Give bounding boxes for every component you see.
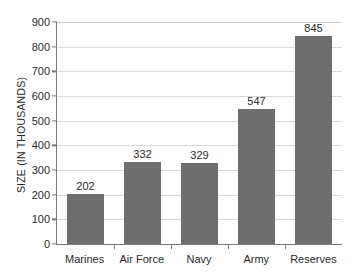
x-tick-mark [228, 244, 229, 249]
x-axis-labels: MarinesAir ForceNavyArmyReserves [56, 250, 342, 268]
y-tick-label: 500 [32, 115, 50, 127]
bar-value-label: 845 [304, 22, 322, 34]
bar-value-label: 332 [133, 148, 151, 160]
x-axis-label: Navy [170, 250, 227, 268]
y-tick-label: 400 [32, 139, 50, 151]
bar-value-label: 202 [76, 180, 94, 192]
bar-slot: 329 [171, 22, 228, 244]
bar[interactable]: 332 [124, 162, 161, 244]
y-axis-title: SIZE (IN THOUSANDS) [14, 20, 28, 250]
y-tick-label: 200 [32, 189, 50, 201]
plot-area: 9008007006005004003002001000 20233232954… [56, 22, 342, 245]
y-tick-label: 300 [32, 164, 50, 176]
bar[interactable]: 547 [238, 109, 275, 244]
bar-slot: 202 [57, 22, 114, 244]
bar-slot: 332 [114, 22, 171, 244]
y-tick-label: 800 [32, 41, 50, 53]
y-tick-label: 600 [32, 90, 50, 102]
bar-chart: SIZE (IN THOUSANDS) 90080070060050040030… [0, 0, 354, 280]
x-axis-label: Reserves [285, 250, 342, 268]
x-axis-label: Army [228, 250, 285, 268]
x-axis-label: Air Force [113, 250, 170, 268]
bar-value-label: 329 [190, 149, 208, 161]
y-tick-label: 900 [32, 16, 50, 28]
bar[interactable]: 329 [181, 163, 218, 244]
bar-slot: 547 [228, 22, 285, 244]
bar-slot: 845 [285, 22, 342, 244]
bar-value-label: 547 [247, 95, 265, 107]
x-tick-mark [285, 244, 286, 249]
bars-group: 202332329547845 [57, 22, 342, 244]
bar[interactable]: 202 [67, 194, 104, 244]
y-tick-label: 700 [32, 65, 50, 77]
x-tick-mark [171, 244, 172, 249]
bar[interactable]: 845 [295, 36, 332, 244]
y-tick-label: 100 [32, 213, 50, 225]
x-axis-label: Marines [56, 250, 113, 268]
x-tick-mark [114, 244, 115, 249]
y-tick-label: 0 [44, 238, 50, 250]
